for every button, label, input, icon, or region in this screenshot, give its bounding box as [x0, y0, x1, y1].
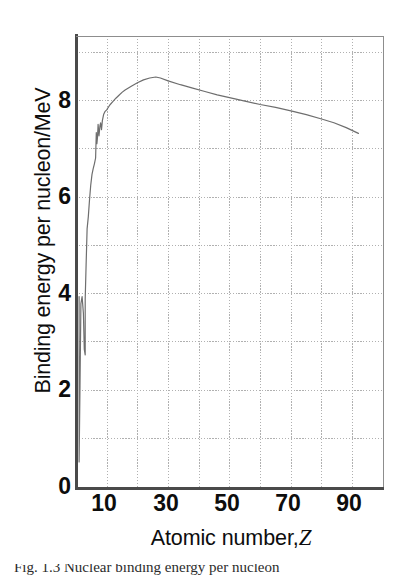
x-axis-title-text: Atomic number,: [151, 526, 299, 550]
figure-caption-text: Fig. 1.3 Nuclear binding energy per nucl…: [14, 564, 390, 575]
x-tick-30: 30: [136, 492, 196, 515]
x-tick-10: 10: [74, 492, 134, 515]
x-tick-50: 50: [197, 492, 257, 515]
x-tick-90: 90: [319, 492, 379, 515]
binding-energy-figure: 8 6 4 2 0 10 30 50 70 90 Binding energy …: [0, 0, 404, 575]
figure-caption-cropped: Fig. 1.3 Nuclear binding energy per nucl…: [14, 564, 390, 575]
x-axis-tick-labels: 10 30 50 70 90: [0, 0, 404, 575]
y-axis-title: Binding energy per nucleon/MeV: [31, 26, 56, 456]
x-tick-70: 70: [258, 492, 318, 515]
x-axis-title-symbol: Z: [299, 525, 312, 550]
x-axis-title: Atomic number,Z: [76, 525, 386, 551]
